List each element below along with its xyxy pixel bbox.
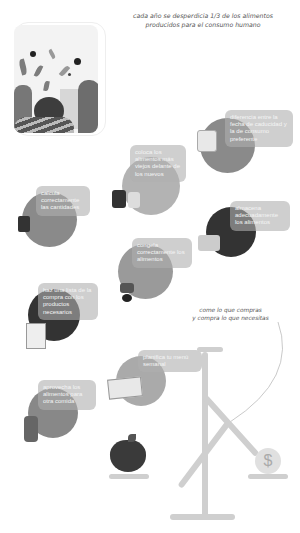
fridge-icon (198, 235, 220, 251)
freezer-bag-icon (120, 283, 134, 293)
step-label: haz una lista de la compra con los produ… (38, 283, 98, 320)
step-label: congela correctamente los alimentos (132, 238, 192, 268)
food-waste-illustration (14, 25, 98, 133)
scale-top-bar (197, 347, 223, 352)
falling-leaf (48, 49, 56, 60)
step-label: planifica tu menú semanal (138, 350, 202, 372)
falling-food-dot (30, 51, 36, 57)
step-label: coloca los alimentos más viejos delante … (130, 145, 186, 182)
apple-leaf (128, 434, 136, 442)
headline-line-1: cada año se desperdicia 1/3 de los alime… (118, 11, 288, 20)
bread-shape (78, 80, 98, 133)
scale-right-plate (248, 474, 288, 479)
scale-left-plate (109, 474, 149, 479)
dollar-coin-icon: $ (255, 448, 281, 474)
falling-leaf (34, 65, 44, 78)
scale-base (170, 514, 235, 520)
apple-icon (110, 440, 146, 472)
pot-icon (18, 216, 30, 232)
menu-planner-icon (107, 376, 143, 399)
step-label: calcula correctamente las cantidades (36, 186, 90, 216)
falling-food-dot (68, 73, 71, 76)
step-label: aprovecha los alimentos para otra comida (38, 380, 96, 410)
scale-pole (202, 352, 208, 518)
callout-line-1: come lo que compras (163, 306, 298, 314)
can-icon (128, 192, 140, 208)
step-label: almacena adecuadamente los alimentos (230, 201, 290, 231)
jar-icon (112, 190, 126, 208)
shopping-list-icon (26, 323, 46, 349)
leftovers-icon (24, 416, 38, 442)
bag-clip-icon (122, 294, 132, 302)
callout-arc (220, 318, 300, 428)
watermelon-shape (14, 117, 74, 133)
headline-line-2: producidos para el consumo humano (118, 20, 288, 29)
falling-food-dot (74, 58, 81, 65)
falling-leaf (18, 58, 28, 75)
headline: cada año se desperdicia 1/3 de los alime… (118, 11, 288, 29)
step-label: diferencia entre la fecha de caducidad y… (225, 110, 293, 147)
falling-leaf (43, 81, 50, 92)
coin-symbol: $ (264, 452, 273, 470)
yogurt-cup-icon (197, 130, 217, 152)
